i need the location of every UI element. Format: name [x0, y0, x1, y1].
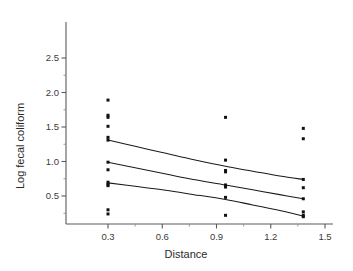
x-tick-label: 1.2 — [264, 231, 277, 242]
data-point — [302, 215, 305, 218]
data-point — [224, 186, 227, 189]
y-tick-label: 0.5 — [46, 190, 59, 201]
data-point — [224, 196, 227, 199]
data-point — [224, 116, 227, 119]
data-point — [224, 159, 227, 162]
tick-labels-group: 0.51.01.52.02.50.30.60.91.21.5 — [46, 52, 332, 242]
x-tick-label: 0.3 — [101, 231, 114, 242]
data-point — [107, 168, 110, 171]
data-point — [302, 127, 305, 130]
data-point — [224, 170, 227, 173]
tick-marks-group — [62, 58, 326, 229]
y-tick-label: 1.5 — [46, 121, 59, 132]
fitted-regression-line — [108, 162, 303, 199]
data-point — [302, 210, 305, 213]
data-point — [302, 186, 305, 189]
lower-confidence-band — [108, 183, 303, 216]
fitted-curves-group — [108, 140, 303, 216]
plot-canvas: 0.51.01.52.02.50.30.60.91.21.5 Log fecal… — [0, 0, 353, 271]
scatter-plot-figure: 0.51.01.52.02.50.30.60.91.21.5 Log fecal… — [0, 0, 353, 271]
data-point — [107, 208, 110, 211]
data-point — [107, 136, 110, 139]
x-tick-label: 0.9 — [210, 231, 223, 242]
axes-group — [66, 22, 333, 224]
data-point — [107, 212, 110, 215]
data-point — [107, 125, 110, 128]
y-tick-label: 2.0 — [46, 87, 59, 98]
data-point — [107, 99, 110, 102]
y-tick-label: 2.5 — [46, 52, 59, 63]
data-point — [107, 184, 110, 187]
data-point — [107, 161, 110, 164]
x-axis-title: Distance — [165, 248, 208, 260]
data-point — [107, 116, 110, 119]
data-point — [107, 139, 110, 142]
x-tick-label: 0.6 — [156, 231, 169, 242]
data-point — [302, 178, 305, 181]
data-point — [302, 197, 305, 200]
data-points-group — [107, 99, 305, 219]
x-tick-label: 1.5 — [318, 231, 331, 242]
y-tick-label: 1.0 — [46, 156, 59, 167]
y-axis-title: Log fecal coliform — [14, 103, 26, 189]
data-point — [224, 214, 227, 217]
upper-confidence-band — [108, 140, 303, 179]
data-point — [302, 137, 305, 140]
